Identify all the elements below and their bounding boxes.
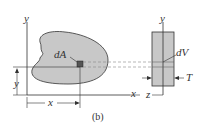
y-axis-label-right: y xyxy=(160,13,165,24)
x-dim-arrow xyxy=(75,101,80,105)
figure-caption: (b) xyxy=(92,112,104,122)
da-label: dA xyxy=(54,49,66,60)
y-dim-arrow xyxy=(15,68,19,73)
y-dimension-label: y xyxy=(14,78,19,89)
thickness-label: T xyxy=(186,72,192,83)
t-arrowhead-right xyxy=(174,76,179,80)
area-element xyxy=(77,61,83,67)
x-axis-label: x xyxy=(131,88,136,99)
y-axis-label-left: y xyxy=(24,13,29,24)
area-shape xyxy=(32,31,108,84)
dv-label: dV xyxy=(176,47,188,58)
z-axis-label: z xyxy=(146,89,150,100)
x-dimension-label: x xyxy=(48,97,53,108)
t-arrowhead-left xyxy=(147,76,152,80)
